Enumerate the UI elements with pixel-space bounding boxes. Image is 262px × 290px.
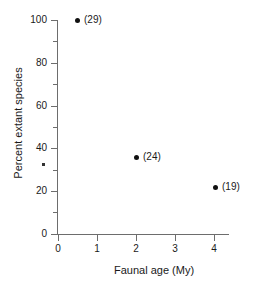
y-minor-tick-90 (53, 41, 58, 42)
y-tick-40 (51, 148, 58, 149)
x-axis-label-3: 3 (165, 244, 185, 254)
x-tick-0 (58, 234, 59, 241)
x-tick-4 (214, 234, 215, 241)
y-axis-title: Percent extant species (12, 23, 24, 223)
y-minor-tick-50 (53, 127, 58, 128)
x-tick-2 (136, 234, 137, 241)
x-axis-label-0: 0 (48, 244, 68, 254)
y-tick-20 (51, 191, 58, 192)
y-minor-tick-30 (53, 170, 58, 171)
x-axis-line (57, 234, 229, 235)
data-point-label: (19) (222, 181, 240, 192)
data-point (134, 155, 139, 160)
data-point (213, 185, 218, 190)
data-point-label: (29) (84, 14, 102, 25)
y-tick-80 (51, 63, 58, 64)
y-tick-0 (51, 234, 58, 235)
x-axis-title: Faunal age (My) (0, 264, 262, 276)
scan-artifact-speck (42, 163, 45, 166)
data-point-label: (24) (143, 151, 161, 162)
data-point (75, 18, 80, 23)
x-axis-label-4: 4 (204, 244, 224, 254)
y-minor-tick-70 (53, 84, 58, 85)
x-axis-label-2: 2 (126, 244, 146, 254)
y-tick-60 (51, 106, 58, 107)
x-tick-1 (97, 234, 98, 241)
y-tick-100 (51, 20, 58, 21)
scatter-chart: 100 80 60 40 20 0 0 1 2 3 4 (29) (24) (1… (0, 0, 262, 290)
x-tick-3 (175, 234, 176, 241)
x-axis-label-1: 1 (87, 244, 107, 254)
y-minor-tick-10 (53, 212, 58, 213)
y-axis-label-0: 0 (7, 229, 47, 239)
